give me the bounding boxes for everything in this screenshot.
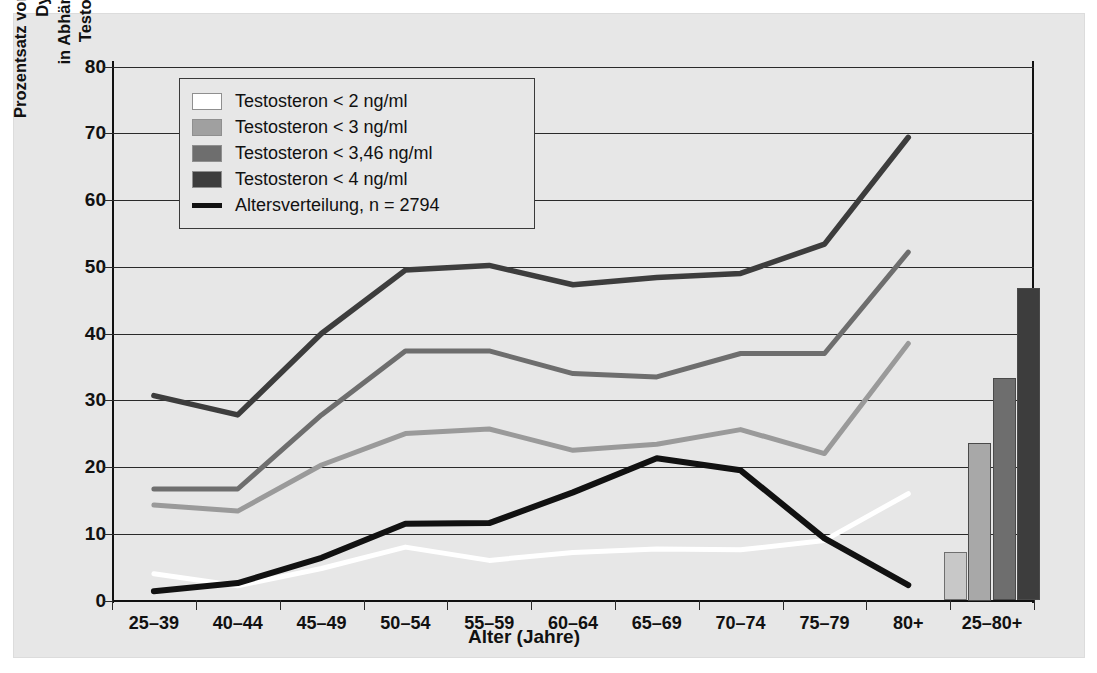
x-axis-tick — [1034, 600, 1035, 610]
x-axis-tick — [866, 600, 867, 610]
legend-item: Testosteron < 2 ng/ml — [192, 88, 522, 114]
bar — [968, 443, 991, 601]
y-axis-tick — [103, 467, 112, 468]
legend-label: Testosteron < 2 ng/ml — [235, 91, 408, 112]
legend-item: Testosteron < 3 ng/ml — [192, 114, 522, 140]
legend-line-marker — [192, 203, 222, 208]
legend-label: Testosteron < 3 ng/ml — [235, 117, 408, 138]
x-axis-tick — [447, 600, 448, 610]
y-axis-tick — [103, 133, 112, 134]
bar — [993, 378, 1016, 600]
y-axis-tick — [103, 267, 112, 268]
x-axis-tick — [615, 600, 616, 610]
y-axis-tick — [103, 200, 112, 201]
series-line — [154, 458, 908, 591]
chart-figure: 01020304050607080 Prozentsatz von Männer… — [13, 13, 1085, 658]
series-line — [154, 344, 908, 512]
legend-swatch — [192, 93, 222, 110]
legend-label: Altersverteilung, n = 2794 — [235, 195, 440, 216]
bar — [944, 552, 967, 600]
bar — [1017, 288, 1040, 600]
chart-legend: Testosteron < 2 ng/mlTestosteron < 3 ng/… — [179, 78, 535, 229]
y-axis-tick — [103, 400, 112, 401]
x-axis-tick — [196, 600, 197, 610]
x-axis-title: Alter (Jahre) — [14, 626, 1034, 648]
legend-swatch — [192, 145, 222, 162]
legend-item: Altersverteilung, n = 2794 — [192, 192, 522, 218]
x-axis-tick — [950, 600, 951, 610]
x-axis-tick — [531, 600, 532, 610]
y-axis-title: Prozentsatz von Männern mit erektiler Dy… — [10, 0, 97, 134]
x-axis-tick — [783, 600, 784, 610]
legend-item: Testosteron < 4 ng/ml — [192, 166, 522, 192]
series-line — [154, 252, 908, 489]
legend-swatch — [192, 119, 222, 136]
y-axis-title-line1: Prozentsatz von Männern mit erektiler Dy… — [10, 0, 54, 134]
legend-item: Testosteron < 3,46 ng/ml — [192, 140, 522, 166]
legend-label: Testosteron < 4 ng/ml — [235, 169, 408, 190]
y-axis-tick-labels: 01020304050607080 — [44, 53, 106, 601]
y-axis-tick — [103, 601, 112, 602]
legend-swatch — [192, 171, 222, 188]
legend-label: Testosteron < 3,46 ng/ml — [235, 143, 433, 164]
x-axis-tick — [699, 600, 700, 610]
y-axis-tick — [103, 334, 112, 335]
x-axis-tick — [112, 600, 113, 610]
x-axis-tick — [280, 600, 281, 610]
y-axis-tick — [103, 534, 112, 535]
x-axis-tick — [364, 600, 365, 610]
y-axis-title-line2: in Abhängigkeit von den Testosteronwerte… — [54, 0, 98, 134]
y-axis-tick — [103, 67, 112, 68]
